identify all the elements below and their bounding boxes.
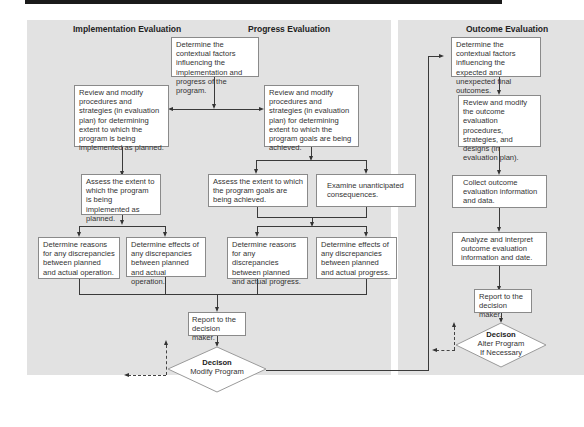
connector [257,279,258,294]
dashed-connector [436,350,455,351]
node-context-outcome: Determine the contextual factors influen… [451,37,541,77]
connector [257,207,258,217]
connector [172,109,260,110]
node-reasons-progress: Determine reasons for any discrepancies … [227,237,308,279]
connector [256,160,367,161]
node-assess-progress: Assess the extent to which the program g… [208,174,308,207]
node-analyze-outcome: Analyze and interpret outcome evaluation… [452,232,547,266]
node-review-outcome: Review and modify the outcome evaluation… [458,95,541,147]
node-report-implementation-progress: Report to the decision maker. [188,312,246,336]
connector [428,56,429,371]
top-rule [25,0,502,4]
connector [499,147,500,172]
connector [266,370,428,371]
node-assess-implementation: Assess the extent to which the program i… [81,174,161,215]
connector [366,207,367,217]
decision-label-line2: If Necessary [455,349,547,358]
node-reasons-operation: Determine reasons for any discrepancies … [38,237,120,279]
node-collect-outcome: Collect outcome evaluation information a… [452,175,547,208]
connector [122,147,123,174]
node-review-implementation: Review and modify procedures and strateg… [74,85,169,147]
node-effects-operation: Determine effects of any discrepancies b… [126,237,206,277]
heading-outcome-evaluation: Outcome Evaluation [466,24,548,34]
arrow-left-icon [124,373,129,377]
connector [79,294,367,295]
connector [366,279,367,294]
decision-title: Decison [202,358,232,367]
decision-title: Decison [486,330,516,339]
dashed-connector [166,345,167,375]
node-effects-progress: Determine effects of any discrepancies b… [316,237,397,279]
arrow-up-icon [452,322,456,327]
heading-progress-evaluation: Progress Evaluation [248,24,330,34]
decision-alter-program: Decison Alter Program If Necessary [455,323,547,368]
arrow-up-icon [164,340,168,345]
decision-label: Modify Program [167,368,267,377]
dashed-connector [454,327,455,350]
connector [499,208,500,229]
node-examine-unanticipated: Examine unanticipated consequences. [316,174,416,207]
decision-modify-program: Decison Modify Program [167,347,267,393]
connector [165,277,166,294]
dashed-connector [128,375,166,376]
heading-implementation-evaluation: Implementation Evaluation [73,24,181,34]
connector [214,77,215,107]
node-review-progress: Review and modify procedures and strateg… [264,85,359,147]
connector [79,226,166,227]
connector [499,266,500,288]
connector [79,279,80,294]
node-context-implementation-progress: Determine the contextual factors influen… [171,37,259,77]
arrow-down-icon [120,220,124,225]
arrow-right-icon [439,54,444,58]
arrow-left-icon [432,348,437,352]
connector [257,226,367,227]
node-report-outcome: Report to the decision maker. [474,289,532,313]
